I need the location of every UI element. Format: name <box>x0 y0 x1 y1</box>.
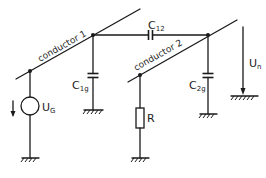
voltage-source-icon <box>21 97 39 115</box>
ug-label: UG <box>42 101 56 115</box>
ground-icon <box>83 110 103 114</box>
ground-icon <box>231 96 258 100</box>
arrow-down-icon <box>11 101 16 117</box>
ground-icon <box>199 114 217 118</box>
resistor-icon <box>136 108 144 128</box>
c2g-branch: C2g <box>189 35 217 118</box>
coupling-circuit-diagram: conductor 1 conductor 2 C12 C1g <box>0 0 266 178</box>
junction-node <box>138 73 142 77</box>
un-label: Un <box>249 57 262 71</box>
c12-label: C12 <box>148 19 165 33</box>
ground-icon <box>131 158 149 162</box>
r-branch: R <box>131 75 155 162</box>
un-voltage-arrow: Un <box>231 27 262 100</box>
junction-node <box>206 33 210 37</box>
arrow-down-icon <box>241 88 246 95</box>
conductor-1: conductor 1 <box>16 9 140 79</box>
junction-node <box>91 33 95 37</box>
ug-source-branch: UG <box>11 71 56 162</box>
c12-branch: C12 <box>93 19 208 40</box>
ground-icon <box>21 158 39 162</box>
junction-node <box>28 69 32 73</box>
c1g-branch: C1g <box>72 35 103 114</box>
r-label: R <box>147 112 155 125</box>
conductor-2: conductor 2 <box>128 20 237 82</box>
c1g-label: C1g <box>72 79 89 93</box>
conductor-1-label: conductor 1 <box>36 29 88 64</box>
c2g-label: C2g <box>189 79 206 93</box>
